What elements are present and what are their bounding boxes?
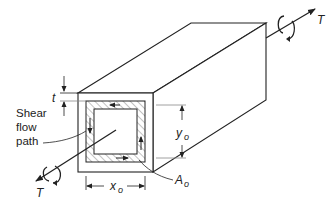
height-label-subscript: o (184, 132, 189, 142)
shear-flow-label-line1: Shear (16, 107, 47, 119)
width-label-subscript: o (118, 185, 123, 195)
torque-label-right: T (317, 13, 326, 27)
shear-flow-label-line2: flow (16, 121, 37, 133)
rotation-arrow-right-icon (278, 16, 294, 39)
torque-axis-right: T (266, 9, 326, 42)
area-label: A (174, 173, 183, 187)
shear-flow-label-line3: path (16, 135, 38, 147)
tube-body (78, 23, 266, 172)
width-label: x (109, 179, 117, 193)
height-label: y (175, 126, 183, 140)
thickness-label: t (52, 91, 56, 105)
torque-label-left: T (36, 186, 45, 200)
area-label-subscript: o (184, 179, 189, 189)
torsion-tube-diagram: T T t Shear flow path y o x o A o (0, 0, 336, 208)
